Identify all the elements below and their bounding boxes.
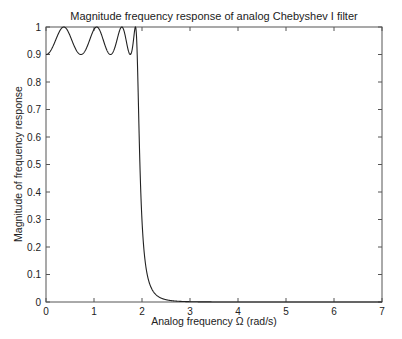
y-tick-label: 0.4 <box>27 187 41 198</box>
x-tick-label: 2 <box>139 306 145 317</box>
chart: Magnitude frequency response of analog C… <box>0 0 402 339</box>
y-tick-label: 0.9 <box>27 49 41 60</box>
y-tick-label: 1 <box>35 22 41 33</box>
y-tick-label: 0.7 <box>27 104 41 115</box>
y-tick-label: 0.2 <box>27 242 41 253</box>
chart-title: Magnitude frequency response of analog C… <box>70 10 358 22</box>
y-tick-label: 0.3 <box>27 214 41 225</box>
x-tick-label: 5 <box>283 306 289 317</box>
plot-area <box>46 27 382 302</box>
y-tick-label: 0.5 <box>27 159 41 170</box>
x-tick-label: 7 <box>379 306 385 317</box>
magnitude-curve <box>46 27 382 302</box>
y-axis-label: Magnitude of frequency response <box>12 86 24 242</box>
y-tick-label: 0.1 <box>27 269 41 280</box>
x-axis-label: Analog frequency Ω (rad/s) <box>151 315 277 327</box>
y-tick-label: 0 <box>35 297 41 308</box>
x-tick-label: 1 <box>91 306 97 317</box>
x-tick-label: 0 <box>43 306 49 317</box>
y-tick-label: 0.6 <box>27 132 41 143</box>
x-tick-label: 6 <box>331 306 337 317</box>
x-axis: 01234567 <box>43 27 385 317</box>
y-axis: 00.10.20.30.40.50.60.70.80.91 <box>27 22 382 308</box>
y-tick-label: 0.8 <box>27 77 41 88</box>
